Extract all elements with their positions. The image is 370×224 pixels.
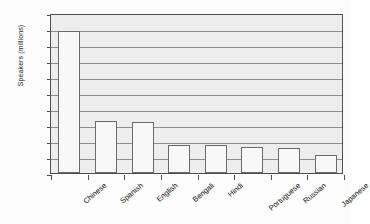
x-tick-label-hindi: Hindi [226,181,245,199]
bar-bengali[interactable] [168,145,190,173]
gridline [51,79,342,80]
gridline [51,63,342,64]
x-tick-label-spanish: Spanish [118,181,145,205]
bar-portuguese[interactable] [241,147,263,173]
x-tick-mark [344,175,345,180]
y-tick-mark [47,47,51,48]
x-tick-label-russian: Russian [301,181,328,205]
y-tick-mark [47,127,51,128]
x-tick-mark [124,175,125,180]
x-tick-mark [234,175,235,180]
plot-area: 01002003004005006007008009001,000 [50,14,343,174]
y-tick-mark [47,79,51,80]
bar-chinese[interactable] [58,31,80,173]
x-tick-mark [198,175,199,180]
x-tick-label-bengali: Bengali [191,181,216,204]
gridline [51,31,342,32]
bar-russian[interactable] [278,148,300,173]
gridline [51,95,342,96]
y-tick-mark [47,31,51,32]
bar-spanish[interactable] [95,121,117,173]
x-tick-label-japanese: Japanese [339,181,370,209]
y-tick-mark [47,63,51,64]
x-tick-label-english: English [154,181,179,204]
y-tick-mark [47,15,51,16]
y-tick-mark [47,95,51,96]
gridline [51,47,342,48]
x-tick-mark [88,175,89,180]
bar-hindi[interactable] [205,145,227,172]
x-tick-mark [271,175,272,180]
y-tick-mark [47,111,51,112]
y-tick-mark [47,159,51,160]
bar-english[interactable] [132,122,154,172]
x-tick-mark [307,175,308,180]
x-tick-label-chinese: Chinese [82,181,109,206]
x-tick-mark [51,175,52,180]
x-tick-label-portuguese: Portuguese [267,181,302,213]
gridline [51,111,342,112]
y-axis-title: Speakers (millions) [17,0,24,116]
y-tick-mark [47,143,51,144]
bar-japanese[interactable] [315,155,337,173]
x-tick-mark [161,175,162,180]
